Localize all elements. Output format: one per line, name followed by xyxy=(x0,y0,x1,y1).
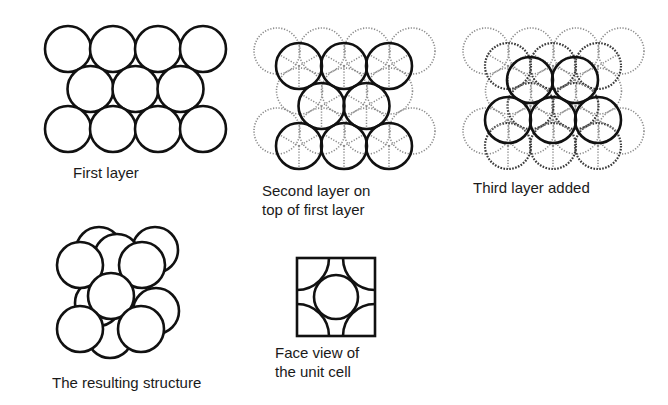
atom-layer-1 xyxy=(180,106,226,152)
panel-second-layer xyxy=(254,28,435,169)
label-first-layer: First layer xyxy=(73,164,139,181)
atom-layer-1 xyxy=(135,26,181,72)
label-unit-cell-line2: the unit cell xyxy=(275,363,351,380)
panel-first-layer xyxy=(45,26,226,152)
atom-layer-1 xyxy=(113,66,159,112)
packing-guide-line xyxy=(369,135,389,147)
atom-layer-1 xyxy=(68,66,114,112)
atom-front xyxy=(118,306,164,352)
panel-resulting-structure xyxy=(57,227,179,358)
panel-third-layer xyxy=(463,28,644,169)
face-center-atom xyxy=(314,275,358,319)
packing-guide-line xyxy=(299,135,319,147)
packing-guide-line xyxy=(510,80,530,92)
packing-guide-line xyxy=(488,55,508,67)
packing-guide-line xyxy=(530,80,550,92)
packing-guide-line xyxy=(533,120,553,132)
atom-layer-1 xyxy=(90,26,136,72)
packing-guide-line xyxy=(279,55,299,67)
packing-guide-line xyxy=(389,135,409,147)
label-second-layer-line1: Second layer on xyxy=(262,182,370,199)
packing-guide-line xyxy=(322,95,342,107)
atom-layer-1 xyxy=(180,26,226,72)
packing-guide-line xyxy=(578,120,598,132)
atom-layer-1 xyxy=(135,106,181,152)
packing-guide-line xyxy=(369,55,389,67)
diagram-canvas: First layer Second layer on top of first… xyxy=(0,0,668,405)
label-second-layer-line2: top of first layer xyxy=(262,201,365,218)
packing-guide-line xyxy=(555,80,575,92)
packing-guide-line xyxy=(575,80,595,92)
packing-guide-line xyxy=(279,135,299,147)
packing-guide-line xyxy=(302,95,322,107)
label-resulting-structure: The resulting structure xyxy=(52,374,201,391)
atom-layer-1 xyxy=(90,106,136,152)
label-unit-cell-line1: Face view of xyxy=(275,344,360,361)
packing-guide-line xyxy=(347,95,367,107)
packing-guide-line xyxy=(389,55,409,67)
packing-guide-line xyxy=(598,55,618,67)
atom-layer-1 xyxy=(45,26,91,72)
packing-guide-line xyxy=(324,55,344,67)
atom-front xyxy=(57,306,103,352)
packing-guide-line xyxy=(344,55,364,67)
packing-guide-line xyxy=(488,120,508,132)
packing-guide-line xyxy=(324,135,344,147)
packing-guide-line xyxy=(299,55,319,67)
label-third-layer: Third layer added xyxy=(473,179,590,196)
packing-guide-line xyxy=(344,135,364,147)
atom-layer-1 xyxy=(45,106,91,152)
packing-guide-line xyxy=(367,95,387,107)
atom-layer-1 xyxy=(158,66,204,112)
